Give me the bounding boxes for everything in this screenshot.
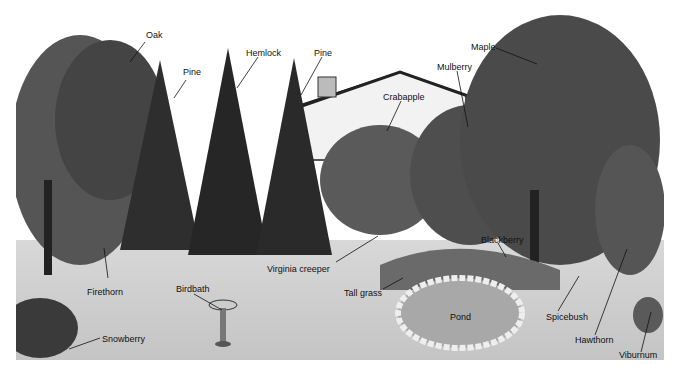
label-maple: Maple bbox=[471, 43, 496, 52]
label-pine-left: Pine bbox=[183, 68, 201, 77]
label-oak: Oak bbox=[146, 31, 163, 40]
label-pine-right: Pine bbox=[314, 49, 332, 58]
label-birdbath: Birdbath bbox=[176, 285, 210, 294]
label-spicebush: Spicebush bbox=[546, 313, 588, 322]
label-firethorn: Firethorn bbox=[87, 288, 123, 297]
label-hemlock: Hemlock bbox=[246, 49, 281, 58]
illustration: Oak Pine Hemlock Pine Maple Mulberry Cra… bbox=[16, 0, 664, 360]
garden-scene bbox=[16, 0, 664, 360]
label-hawthorn: Hawthorn bbox=[575, 336, 614, 345]
label-mulberry: Mulberry bbox=[437, 63, 472, 72]
label-crabapple: Crabapple bbox=[383, 93, 425, 102]
label-pond: Pond bbox=[450, 313, 471, 322]
label-blackberry: Blackberry bbox=[481, 236, 524, 245]
label-virginia-creeper: Virginia creeper bbox=[267, 265, 330, 274]
label-tall-grass: Tall grass bbox=[344, 289, 382, 298]
label-snowberry: Snowberry bbox=[102, 335, 145, 344]
label-viburnum: Viburnum bbox=[619, 351, 657, 360]
